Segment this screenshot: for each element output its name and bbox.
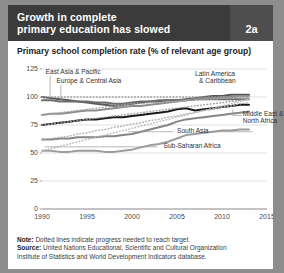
figure-card: Growth in complete primary education has… [8,5,273,269]
figure-header: Growth in complete primary education has… [8,5,273,41]
figure-title-line1: Growth in complete [17,11,117,23]
figure-footnotes: Note: Dotted lines indicate progress nee… [8,231,273,261]
annotation-middle-east-north-africa: Middle East & [243,110,281,118]
chart-area: 0255075100125 199019952000200520102015 E… [8,61,273,231]
source-line-2: Institute of Statistics and World Develo… [17,253,265,261]
y-tick-50: 50 [30,149,38,156]
line-chart: 0255075100125 199019952000200520102015 [8,61,273,231]
y-tick-125: 125 [26,65,38,72]
source-label: Source: [17,244,41,251]
note-text: Dotted lines indicate progress needed to… [34,236,190,243]
gridlines [40,69,268,209]
annotation-sub-saharan-africa: Sub-Saharan Africa [164,142,221,150]
note-line: Note: Dotted lines indicate progress nee… [17,236,265,244]
source-line: Source: United Nations Educational, Scie… [17,244,265,252]
annotation-latin-america-caribbean-line2: & Caribbean [199,77,236,85]
annotation-middle-east-north-africa-line2: North Africa [243,117,277,125]
annotation-south-asia: South Asia [177,127,209,135]
x-tick-2015: 2015 [259,213,273,220]
y-tick-100: 100 [26,93,38,100]
x-tick-2010: 2010 [214,213,230,220]
x-tick-2000: 2000 [124,213,140,220]
x-axis-tick-labels: 199019952000200520102015 [34,213,273,220]
y-tick-75: 75 [30,121,38,128]
x-tick-2005: 2005 [169,213,185,220]
annotation-latin-america-caribbean: Latin America [195,70,235,78]
chart-subtitle: Primary school completion rate (% of rel… [8,41,273,61]
figure-title: Growth in complete primary education has… [8,11,170,36]
y-tick-25: 25 [30,177,38,184]
x-tick-1990: 1990 [34,213,50,220]
note-label: Note: [17,236,34,243]
y-axis-tick-labels: 0255075100125 [26,65,38,212]
figure-number-badge: 2a [230,5,273,41]
annotation-europe-central-asia: Europe & Central Asia [56,77,121,85]
y-tick-0: 0 [34,205,38,212]
figure-number-label: 2a [245,23,257,41]
x-tick-1995: 1995 [79,213,95,220]
source-text: United Nations Educational, Scientific a… [41,244,226,251]
figure-title-line2: primary education has slowed [17,23,170,35]
annotation-east-asia-pacific: East Asia & Pacific [46,68,101,76]
